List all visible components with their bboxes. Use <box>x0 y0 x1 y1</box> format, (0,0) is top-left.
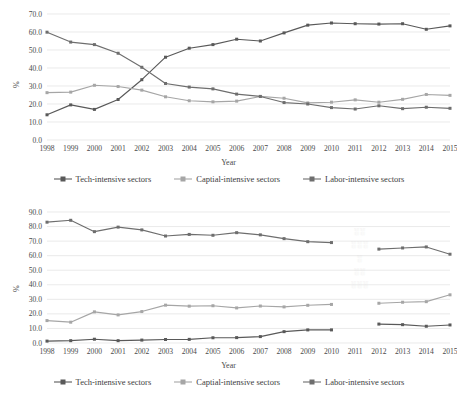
data-point-labor <box>235 231 238 234</box>
data-point-labor <box>449 107 452 110</box>
y-tick-label: 60.0 <box>29 28 42 37</box>
chart-bottom-legend: Tech-intensive sectors Captial-intensive… <box>0 377 457 387</box>
legend-label-labor: Labor-intensive sectors <box>325 377 404 387</box>
x-tick-label: 2014 <box>419 144 434 153</box>
data-point-labor <box>93 43 96 46</box>
data-point-tech <box>235 38 238 41</box>
x-tick-label: 2009 <box>300 144 315 153</box>
data-point-tech <box>46 113 49 116</box>
data-point-labor <box>425 106 428 109</box>
x-tick-label: 2008 <box>276 144 291 153</box>
data-point-tech <box>354 22 357 25</box>
x-tick-label: 2010 <box>324 347 339 356</box>
chart-bottom-x-axis-title: Year <box>0 361 457 370</box>
data-point-tech <box>330 22 333 25</box>
series-line-capital <box>47 85 450 103</box>
data-point-capital <box>259 305 262 308</box>
data-point-tech <box>306 328 309 331</box>
chart-top-x-axis-title: Year <box>0 158 457 167</box>
data-point-capital <box>425 93 428 96</box>
x-tick-label: 2008 <box>276 347 291 356</box>
data-point-tech <box>425 325 428 328</box>
legend-item-labor: Labor-intensive sectors <box>302 174 404 184</box>
data-point-capital <box>46 91 49 94</box>
legend-marker-labor <box>302 175 322 183</box>
data-point-capital <box>164 95 167 98</box>
data-point-labor <box>46 31 49 34</box>
legend-item-labor: Labor-intensive sectors <box>302 377 404 387</box>
y-tick-label: 40.0 <box>29 280 42 289</box>
data-point-labor <box>46 221 49 224</box>
data-point-labor <box>377 248 380 251</box>
data-point-tech <box>117 339 120 342</box>
legend-item-capital: Captial-intensive sectors <box>173 174 280 184</box>
legend-label-tech: Tech-intensive sectors <box>76 174 152 184</box>
data-point-tech <box>449 24 452 27</box>
x-tick-label: 2007 <box>253 144 268 153</box>
data-point-tech <box>306 24 309 27</box>
legend-label-tech: Tech-intensive sectors <box>76 377 152 387</box>
data-point-tech <box>211 43 214 46</box>
data-point-labor <box>164 235 167 238</box>
x-tick-label: 2009 <box>300 347 315 356</box>
data-point-tech <box>188 47 191 50</box>
series-line-labor <box>47 32 450 109</box>
x-tick-label: 2002 <box>134 347 149 356</box>
chart-bottom-y-axis-title: % <box>12 285 21 292</box>
data-point-labor <box>188 233 191 236</box>
y-tick-label: 50.0 <box>29 46 42 55</box>
data-point-labor <box>354 108 357 111</box>
data-point-capital <box>235 100 238 103</box>
chart-bottom-plot: 90.080.070.060.050.040.030.020.010.00.01… <box>0 200 457 358</box>
data-point-capital <box>140 89 143 92</box>
x-tick-label: 2010 <box>324 144 339 153</box>
data-point-labor <box>306 240 309 243</box>
chart-bottom-svg: 90.080.070.060.050.040.030.020.010.00.01… <box>0 200 457 358</box>
y-tick-label: 20.0 <box>29 309 42 318</box>
data-point-tech <box>283 330 286 333</box>
x-tick-label: 2007 <box>253 347 268 356</box>
data-point-labor <box>330 241 333 244</box>
x-tick-label: 2003 <box>158 347 173 356</box>
data-point-capital <box>93 84 96 87</box>
x-tick-label: 2002 <box>134 144 149 153</box>
data-point-labor <box>259 233 262 236</box>
legend-marker-capital <box>173 378 193 386</box>
data-point-tech <box>164 338 167 341</box>
y-tick-label: 10.0 <box>29 324 42 333</box>
x-tick-label: 1999 <box>63 347 78 356</box>
x-tick-label: 2001 <box>111 347 126 356</box>
x-tick-label: 2011 <box>348 347 363 356</box>
data-point-capital <box>211 304 214 307</box>
data-point-labor <box>330 106 333 109</box>
data-point-labor <box>140 66 143 69</box>
data-point-capital <box>93 310 96 313</box>
data-point-capital <box>401 301 404 304</box>
data-point-labor <box>164 82 167 85</box>
data-point-capital <box>425 300 428 303</box>
data-point-labor <box>283 237 286 240</box>
legend-label-capital: Captial-intensive sectors <box>196 174 280 184</box>
data-point-capital <box>235 306 238 309</box>
data-point-tech <box>259 40 262 43</box>
data-point-labor <box>259 95 262 98</box>
data-point-labor <box>401 107 404 110</box>
data-point-tech <box>188 338 191 341</box>
x-tick-label: 2015 <box>442 144 457 153</box>
x-tick-label: 2012 <box>371 144 386 153</box>
data-point-labor <box>69 219 72 222</box>
legend-label-labor: Labor-intensive sectors <box>325 174 404 184</box>
data-point-labor <box>69 41 72 44</box>
x-tick-label: 2015 <box>442 347 457 356</box>
legend-item-tech: Tech-intensive sectors <box>53 377 152 387</box>
x-tick-label: 1998 <box>39 347 54 356</box>
x-tick-label: 2013 <box>395 144 410 153</box>
data-point-capital <box>117 85 120 88</box>
x-tick-label: 2000 <box>87 347 102 356</box>
data-point-labor <box>449 253 452 256</box>
chart-top-plot: 70.060.050.040.030.020.010.00.0199819992… <box>0 0 457 155</box>
data-point-tech <box>259 335 262 338</box>
data-point-tech <box>46 340 49 343</box>
legend-marker-tech <box>53 378 73 386</box>
data-point-capital <box>283 305 286 308</box>
